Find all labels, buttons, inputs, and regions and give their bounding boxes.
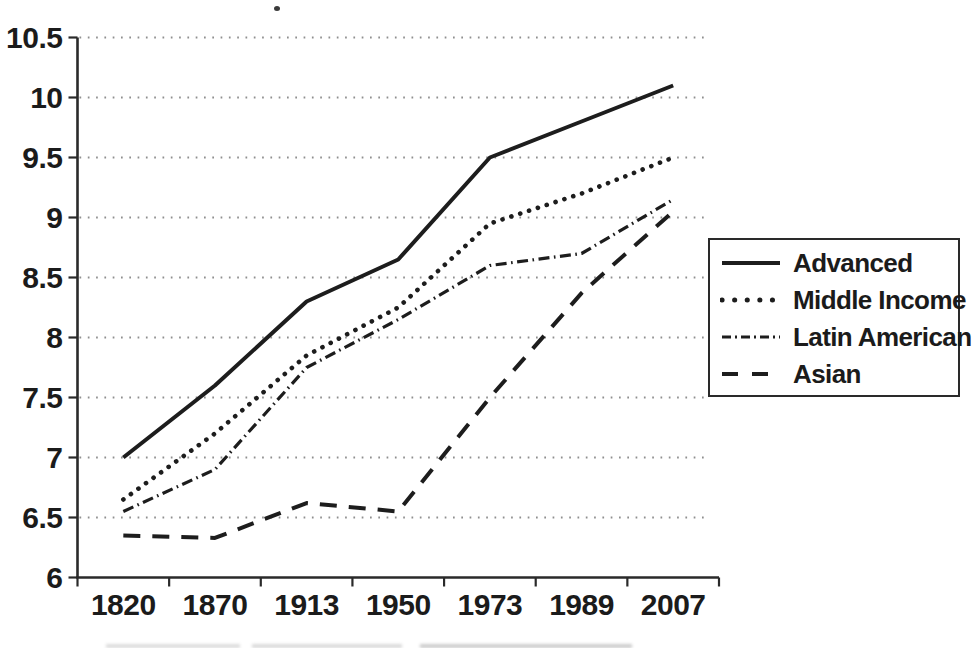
chart-page: 10.5109.598.587.576.56182018701913195019…: [0, 0, 974, 648]
legend-label: Advanced: [793, 250, 912, 276]
y-axis-label: 7.5: [22, 381, 62, 414]
series-line-latin-american: [123, 200, 673, 512]
cropped-caption-remnant: [106, 644, 240, 648]
legend-item-latin-american: Latin American: [720, 318, 958, 355]
y-axis-label: 9: [46, 201, 62, 234]
y-axis-label: 8: [46, 321, 62, 354]
y-axis-label: 10: [30, 81, 62, 114]
legend-label: Latin American: [793, 324, 971, 350]
y-axis-label: 9.5: [22, 141, 62, 174]
legend-sample-solid-line-icon: [720, 257, 784, 269]
x-axis-label: 1870: [183, 588, 248, 621]
legend: AdvancedMiddle IncomeLatin AmericanAsian: [708, 238, 960, 397]
scan-artifact-dot: [274, 6, 280, 11]
y-axis-label: 8.5: [22, 261, 62, 294]
legend-sample-dash-dot-line-icon: [720, 331, 784, 343]
legend-label: Middle Income: [793, 287, 966, 313]
legend-label: Asian: [793, 361, 861, 387]
cropped-caption-remnant: [420, 644, 632, 648]
y-axis-label: 7: [46, 441, 62, 474]
cropped-caption-remnant: [252, 644, 402, 648]
series-line-advanced: [123, 86, 673, 458]
y-axis-label: 6: [46, 561, 62, 594]
series-line-middle-income: [123, 158, 673, 500]
legend-item-advanced: Advanced: [720, 244, 958, 281]
x-axis-label: 1820: [91, 588, 156, 621]
x-axis-label: 1989: [549, 588, 614, 621]
x-axis-label: 1950: [366, 588, 431, 621]
x-axis-label: 1913: [274, 588, 339, 621]
legend-item-asian: Asian: [720, 355, 958, 392]
legend-sample-dotted-line-icon: [720, 294, 784, 306]
x-axis-label: 1973: [458, 588, 523, 621]
legend-item-middle-income: Middle Income: [720, 281, 958, 318]
x-axis-label: 2007: [641, 588, 706, 621]
legend-sample-dashed-line-icon: [720, 368, 784, 380]
y-axis-label: 10.5: [6, 21, 62, 54]
y-axis-label: 6.5: [22, 501, 62, 534]
